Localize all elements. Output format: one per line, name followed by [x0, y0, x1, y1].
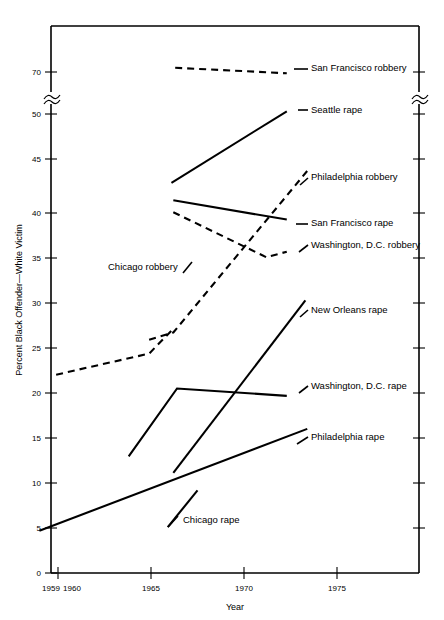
leader-new-orleans-rape [300, 310, 308, 317]
series-line-new-orleans-rape [173, 300, 305, 473]
series-label-san-francisco-rape: San Francisco rape [311, 217, 393, 228]
series-label-seattle-rape: Seattle rape [311, 104, 362, 115]
leader-washington-dc-robbery [299, 245, 308, 252]
series-line-washington-d-c-robbery [173, 212, 286, 257]
y-tick-label-40: 40 [32, 209, 41, 218]
y-tick-label-50: 50 [32, 110, 41, 119]
axis-break-symbol-right [412, 95, 428, 104]
series-line-san-francisco-robbery [175, 68, 287, 73]
x-axis-title: Year [226, 602, 244, 612]
leader-washington-dc-rape [299, 386, 308, 393]
x-tick-label-1975: 1975 [328, 584, 346, 593]
axis-group [51, 26, 419, 573]
series-label-layer: San Francisco robberySeattle rapePhilade… [108, 62, 420, 525]
leader-line-group [168, 69, 308, 527]
x-tick-label-1960: 1960 [63, 584, 81, 593]
y-tick-label-10: 10 [32, 479, 41, 488]
series-label-san-francisco-robbery: San Francisco robbery [311, 62, 407, 73]
chart-container: 70 50 45 40 35 30 25 20 15 10 5 0 1959 1… [0, 0, 444, 620]
series-line-san-francisco-rape [173, 200, 286, 219]
leader-philadelphia-rape [297, 437, 308, 444]
leader-chicago-rape [168, 516, 178, 527]
y-tick-label-35: 35 [32, 254, 41, 263]
y-tick-label-15: 15 [32, 434, 41, 443]
y-tick-label-0: 0 [37, 569, 42, 578]
y-tick-label-25: 25 [32, 344, 41, 353]
series-label-new-orleans-rape: New Orleans rape [311, 304, 388, 315]
series-line-philadelphia-rape [39, 429, 307, 531]
leader-philadelphia-robbery [300, 178, 308, 185]
series-label-washington-d-c-robbery: Washington, D.C. robbery [311, 239, 420, 250]
x-tick-label-group: 1959 1960 1965 1970 1975 [42, 584, 346, 593]
series-line-seattle-rape [171, 111, 286, 183]
y-tick-label-30: 30 [32, 299, 41, 308]
y-tick-label-group: 70 50 45 40 35 30 25 20 15 10 5 0 [32, 68, 41, 578]
leader-chicago-robbery [183, 262, 192, 273]
line-chart: 70 50 45 40 35 30 25 20 15 10 5 0 1959 1… [0, 0, 444, 620]
series-layer [39, 68, 307, 531]
y-tick-label-45: 45 [32, 155, 41, 164]
series-label-philadelphia-rape: Philadelphia rape [311, 431, 384, 442]
series-label-washington-d-c-rape: Washington, D.C. rape [311, 380, 407, 391]
x-tick-label-1970: 1970 [235, 584, 253, 593]
y-axis-title: Percent Black Offender—White Victim [14, 224, 24, 376]
y-tick-label-20: 20 [32, 389, 41, 398]
series-label-philadelphia-robbery: Philadelphia robbery [311, 171, 398, 182]
series-label-chicago-robbery: Chicago robbery [108, 261, 178, 272]
y-tick-label-70: 70 [32, 68, 41, 77]
axis-break-symbol-left [44, 95, 60, 104]
x-tick-label-1965: 1965 [142, 584, 160, 593]
series-label-chicago-rape: Chicago rape [183, 514, 240, 525]
y-tick-label-5: 5 [37, 524, 42, 533]
series-line-philadelphia-robbery [149, 171, 307, 340]
x-axis-origin-label: 1959 [42, 584, 60, 593]
